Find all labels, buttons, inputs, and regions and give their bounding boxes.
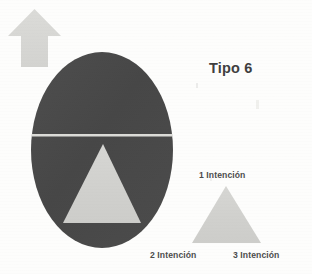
- legend-triangle-shape: [192, 186, 261, 243]
- up-arrow-icon: [8, 9, 61, 67]
- scan-artifact: [196, 83, 198, 88]
- scan-artifact: [256, 100, 259, 109]
- vertex-label-3: 3 Intención: [233, 250, 279, 260]
- figure-canvas: Tipo 6 1 Intención 2 Intención 3 Intenci…: [0, 0, 312, 274]
- figure-title: Tipo 6: [209, 60, 253, 76]
- vertex-label-2: 2 Intención: [150, 250, 196, 260]
- diagram-svg: [0, 0, 312, 274]
- vertex-label-1: 1 Intención: [199, 170, 245, 180]
